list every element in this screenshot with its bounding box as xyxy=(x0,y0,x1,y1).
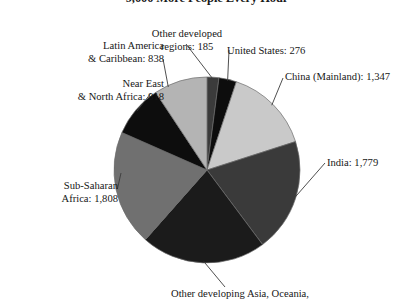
label-line-1: China (Mainland): 1,347 xyxy=(285,71,390,82)
label-line-1: Other developing Asia, Oceania, xyxy=(171,288,309,299)
slice-label-sub-saharan-africa: Sub-Saharan Africa: 1,808 xyxy=(6,180,118,205)
slice-label-india: India: 1,779 xyxy=(327,157,378,170)
label-line-2: & Caribbean: 838 xyxy=(12,53,164,66)
slice-label-united-states: United States: 276 xyxy=(227,45,305,58)
label-line-1: Other developed xyxy=(152,28,222,39)
pie-chart-figure: 9,000 More People Every Hour Other devel… xyxy=(0,0,414,301)
label-line-1: Near East xyxy=(123,78,164,89)
slice-label-china-mainland: China (Mainland): 1,347 xyxy=(285,71,390,84)
label-line-1: United States: 276 xyxy=(227,45,305,56)
slice-label-other-developing-asia-oceania: Other developing Asia, Oceania, xyxy=(171,288,309,301)
label-line-1: Sub-Saharan xyxy=(64,180,118,191)
slice-label-latin-america-caribbean: Latin America & Caribbean: 838 xyxy=(12,40,164,65)
label-line-2: Africa: 1,808 xyxy=(6,193,118,206)
leader-line xyxy=(204,262,225,287)
label-line-2: & North Africa: 818 xyxy=(2,91,164,104)
label-line-1: India: 1,779 xyxy=(327,157,378,168)
slice-label-near-east-north-africa: Near East & North Africa: 818 xyxy=(2,78,164,103)
label-line-1: Latin America xyxy=(103,40,164,51)
leader-line xyxy=(272,78,283,105)
